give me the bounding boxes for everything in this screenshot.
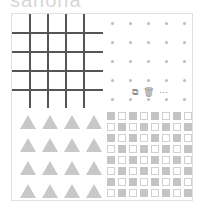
dot bbox=[129, 60, 132, 63]
check-square bbox=[184, 156, 192, 164]
dot bbox=[183, 60, 186, 63]
more-icon[interactable]: ··· bbox=[159, 86, 168, 98]
check-square bbox=[173, 112, 181, 120]
triangle-shape bbox=[42, 184, 58, 198]
check-square bbox=[162, 123, 170, 131]
check-square bbox=[107, 123, 115, 131]
check-square bbox=[118, 134, 126, 142]
check-square bbox=[151, 145, 159, 153]
check-square bbox=[162, 178, 170, 186]
check-square bbox=[107, 156, 115, 164]
check-square bbox=[107, 178, 115, 186]
dot bbox=[129, 41, 132, 44]
check-square bbox=[129, 123, 137, 131]
dot bbox=[129, 22, 132, 25]
check-square bbox=[151, 112, 159, 120]
dot bbox=[129, 79, 132, 82]
dot bbox=[147, 41, 150, 44]
check-square bbox=[107, 134, 115, 142]
check-square bbox=[151, 123, 159, 131]
check-square bbox=[107, 189, 115, 197]
check-square bbox=[118, 123, 126, 131]
check-square bbox=[129, 145, 137, 153]
dot bbox=[147, 98, 150, 101]
check-square bbox=[184, 134, 192, 142]
check-square bbox=[140, 123, 148, 131]
check-square bbox=[129, 134, 137, 142]
check-square bbox=[140, 167, 148, 175]
check-square bbox=[184, 145, 192, 153]
check-square bbox=[162, 112, 170, 120]
check-square bbox=[151, 134, 159, 142]
triangle-shape bbox=[64, 184, 80, 198]
check-square bbox=[184, 178, 192, 186]
checkerboard-pattern-tile[interactable] bbox=[103, 108, 194, 202]
grid-line bbox=[12, 89, 103, 91]
check-square bbox=[151, 178, 159, 186]
check-square bbox=[140, 178, 148, 186]
check-square bbox=[129, 167, 137, 175]
check-square bbox=[184, 167, 192, 175]
check-square bbox=[173, 134, 181, 142]
check-square bbox=[173, 156, 181, 164]
dot bbox=[147, 79, 150, 82]
grid-line bbox=[65, 14, 67, 108]
check-square bbox=[184, 112, 192, 120]
dot bbox=[183, 41, 186, 44]
dot bbox=[147, 60, 150, 63]
dot bbox=[165, 79, 168, 82]
check-square bbox=[118, 112, 126, 120]
dot bbox=[183, 22, 186, 25]
dot bbox=[129, 98, 132, 101]
triangle-shape bbox=[64, 138, 80, 152]
grid-line bbox=[12, 32, 103, 34]
check-square bbox=[162, 134, 170, 142]
check-square bbox=[129, 112, 137, 120]
check-square bbox=[129, 156, 137, 164]
tile-toolbar: ⧉ 🗑 ··· bbox=[130, 86, 170, 98]
check-square bbox=[107, 145, 115, 153]
check-square bbox=[173, 178, 181, 186]
check-square bbox=[140, 145, 148, 153]
triangles-pattern-tile[interactable] bbox=[12, 108, 103, 202]
check-square bbox=[140, 189, 148, 197]
grid-line bbox=[29, 14, 31, 108]
check-square bbox=[118, 167, 126, 175]
copy-icon[interactable]: ⧉ bbox=[132, 86, 138, 98]
check-square bbox=[151, 167, 159, 175]
triangle-shape bbox=[42, 138, 58, 152]
triangle-shape bbox=[86, 161, 102, 175]
grid-pattern-tile[interactable] bbox=[12, 14, 103, 108]
dot bbox=[165, 98, 168, 101]
pattern-card[interactable] bbox=[11, 13, 193, 201]
check-square bbox=[118, 178, 126, 186]
check-square bbox=[162, 189, 170, 197]
triangle-shape bbox=[20, 115, 36, 129]
dot bbox=[111, 98, 114, 101]
check-square bbox=[118, 189, 126, 197]
check-square bbox=[162, 145, 170, 153]
grid-line bbox=[83, 14, 85, 108]
dot bbox=[111, 22, 114, 25]
check-square bbox=[173, 145, 181, 153]
dot bbox=[111, 60, 114, 63]
triangle-shape bbox=[20, 184, 36, 198]
check-square bbox=[107, 112, 115, 120]
triangle-shape bbox=[42, 115, 58, 129]
dot bbox=[165, 41, 168, 44]
dot bbox=[111, 41, 114, 44]
triangle-shape bbox=[64, 115, 80, 129]
check-square bbox=[140, 134, 148, 142]
grid-line bbox=[12, 51, 103, 53]
check-square bbox=[129, 178, 137, 186]
trash-icon[interactable]: 🗑 bbox=[143, 86, 154, 98]
check-square bbox=[162, 167, 170, 175]
check-square bbox=[151, 189, 159, 197]
triangle-shape bbox=[20, 161, 36, 175]
check-square bbox=[151, 156, 159, 164]
check-square bbox=[140, 156, 148, 164]
triangle-shape bbox=[86, 115, 102, 129]
triangle-shape bbox=[64, 161, 80, 175]
check-square bbox=[173, 167, 181, 175]
grid-line bbox=[47, 14, 49, 108]
